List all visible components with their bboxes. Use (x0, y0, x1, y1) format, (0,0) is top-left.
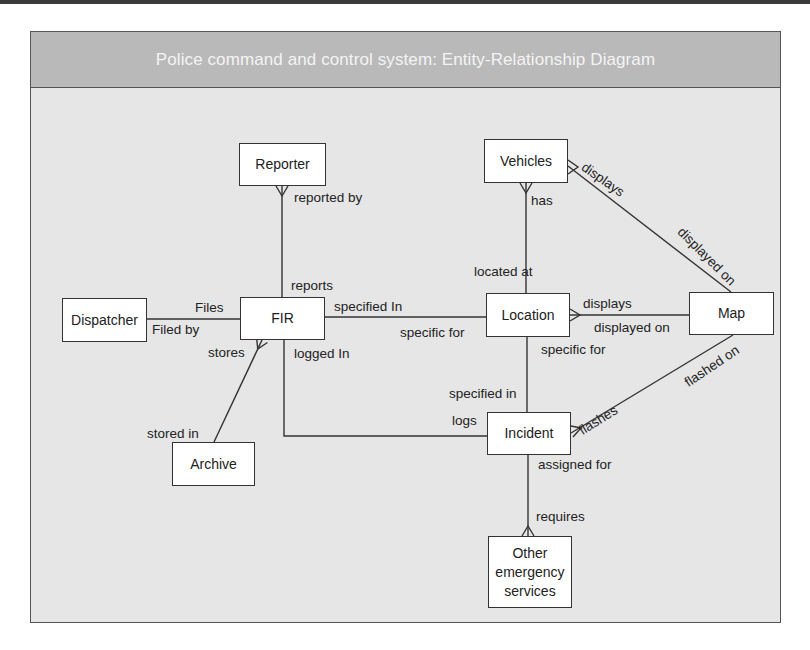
label-specified-in-incident: specified in (449, 386, 517, 401)
line-vehicles-map (568, 166, 731, 292)
label-requires: requires (536, 509, 585, 524)
entity-map-label: Map (718, 304, 745, 323)
label-located-at: located at (474, 264, 533, 279)
entity-fir-label: FIR (271, 309, 294, 328)
label-reported-by: reported by (294, 190, 362, 205)
label-specified-in-fir: specified In (334, 299, 402, 314)
entity-location-label: Location (502, 306, 555, 325)
label-logs: logs (452, 413, 477, 428)
entity-vehicles[interactable]: Vehicles (484, 139, 568, 183)
entity-other-emergency-services-label: Other emergency services (493, 544, 567, 601)
entity-map[interactable]: Map (689, 292, 774, 335)
label-specific-for-incident: specific for (541, 342, 606, 357)
entity-fir[interactable]: FIR (240, 297, 325, 340)
entity-vehicles-label: Vehicles (500, 152, 552, 171)
label-reports: reports (291, 278, 333, 293)
entity-reporter-label: Reporter (255, 155, 309, 174)
label-stored-in: stored in (147, 426, 199, 441)
label-displays-location: displays (583, 296, 632, 311)
entity-location[interactable]: Location (486, 293, 570, 337)
label-stores: stores (208, 345, 245, 360)
entity-reporter[interactable]: Reporter (239, 143, 326, 186)
label-specific-for-location: specific for (400, 325, 465, 340)
label-has: has (531, 193, 553, 208)
entity-incident-label: Incident (504, 424, 553, 443)
entity-archive[interactable]: Archive (172, 442, 255, 486)
entity-archive-label: Archive (190, 455, 237, 474)
label-assigned-for: assigned for (538, 457, 612, 472)
entity-dispatcher[interactable]: Dispatcher (62, 298, 147, 342)
entity-dispatcher-label: Dispatcher (71, 311, 138, 330)
label-filed-by: Filed by (152, 322, 199, 337)
label-displayed-on-location: displayed on (594, 320, 670, 335)
label-logged-in: logged In (294, 346, 350, 361)
entity-other-emergency-services[interactable]: Other emergency services (488, 536, 572, 608)
entity-incident[interactable]: Incident (487, 412, 571, 455)
label-files: Files (195, 300, 224, 315)
